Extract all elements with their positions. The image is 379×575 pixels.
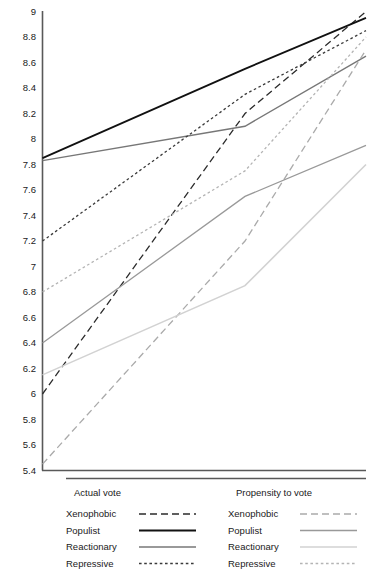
legend-heading: Propensity to vote — [236, 487, 312, 498]
y-tick-label: 8.6 — [23, 57, 36, 68]
legend-item-label: Populist — [66, 525, 100, 536]
legend-item-label: Reactionary — [66, 541, 117, 552]
legend-item-label: Repressive — [66, 558, 114, 569]
y-tick-label: 7.8 — [23, 159, 36, 170]
legend-item-label: Populist — [228, 525, 262, 536]
series-line-propensity-to-vote-xenophobic — [43, 50, 367, 464]
legend-item-label: Xenophobic — [66, 508, 116, 519]
y-tick-label: 5.6 — [23, 439, 36, 450]
y-tick-label: 5.8 — [23, 414, 36, 425]
series-line-propensity-to-vote-populist — [43, 145, 367, 343]
y-tick-label: 6 — [31, 388, 36, 399]
series-line-propensity-to-vote-reactionary — [43, 165, 367, 375]
y-tick-label: 6.4 — [23, 337, 36, 348]
y-tick-label: 8.4 — [23, 82, 36, 93]
y-tick-label: 6.2 — [23, 363, 36, 374]
legend-item-label: Reactionary — [228, 541, 279, 552]
series-line-actual-vote-populist — [43, 18, 367, 158]
series-line-actual-vote-reactionary — [43, 56, 367, 161]
line-chart: 98.88.68.48.287.87.67.47.276.86.66.46.26… — [0, 0, 379, 575]
y-tick-label: 8.8 — [23, 31, 36, 42]
chart-series-group — [43, 12, 367, 465]
legend-item-label: Xenophobic — [228, 508, 278, 519]
y-tick-label: 7 — [31, 261, 36, 272]
series-line-actual-vote-xenophobic — [43, 12, 367, 395]
y-axis-tick-labels: 98.88.68.48.287.87.67.47.276.86.66.46.26… — [23, 6, 36, 476]
series-line-propensity-to-vote-repressive — [43, 37, 367, 292]
y-tick-label: 7.6 — [23, 184, 36, 195]
y-tick-label: 6.6 — [23, 312, 36, 323]
y-tick-label: 6.8 — [23, 286, 36, 297]
chart-figure: 98.88.68.48.287.87.67.47.276.86.66.46.26… — [0, 0, 379, 575]
y-tick-label: 9 — [31, 6, 36, 17]
y-tick-label: 5.4 — [23, 465, 36, 476]
y-tick-label: 8 — [31, 133, 36, 144]
legend-item-label: Repressive — [228, 558, 276, 569]
y-tick-label: 7.4 — [23, 210, 36, 221]
chart-legend: Actual voteXenophobicPopulistReactionary… — [66, 487, 357, 569]
y-tick-label: 8.2 — [23, 108, 36, 119]
y-tick-label: 7.2 — [23, 235, 36, 246]
legend-heading: Actual vote — [74, 487, 121, 498]
